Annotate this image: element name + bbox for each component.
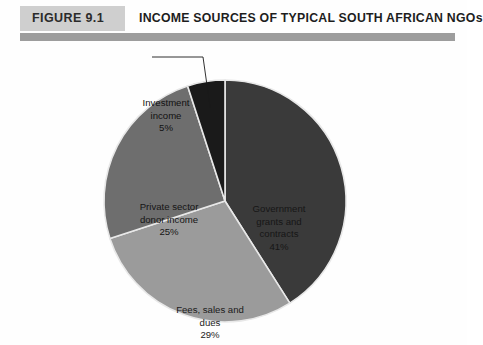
figure-header: FIGURE 9.1 INCOME SOURCES OF TYPICAL SOU…	[0, 0, 467, 46]
header-rule-divider	[20, 33, 455, 41]
figure-title: INCOME SOURCES OF TYPICAL SOUTH AFRICAN …	[139, 11, 483, 25]
pie-chart-svg	[0, 46, 467, 345]
pie-chart: Government grants and contracts 41% Fees…	[0, 46, 467, 345]
figure-number-label: FIGURE 9.1	[32, 11, 104, 25]
